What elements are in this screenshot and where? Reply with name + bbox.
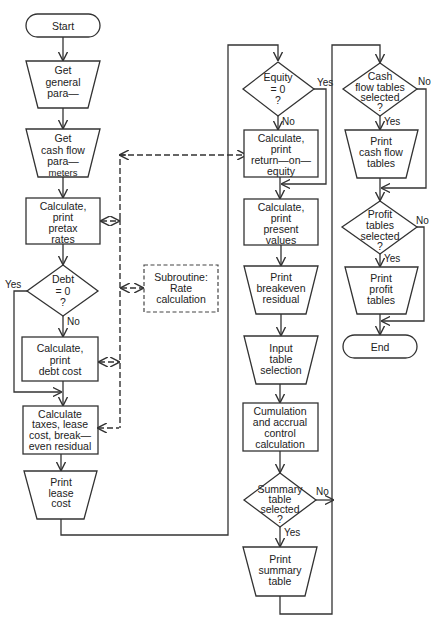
svg-text:?: ?	[377, 240, 383, 252]
yes-label: Yes	[384, 116, 400, 127]
node-pretax-rates: Calculate, print pretax rates	[26, 198, 100, 245]
svg-text:selection: selection	[260, 364, 302, 376]
node-cashflow-decision: Cash flow tables selected ?	[343, 63, 417, 116]
svg-text:Equity: Equity	[263, 71, 293, 83]
node-print-cashflow: Print cash flow tables	[345, 130, 418, 178]
flowchart: Start Get general para— meters Get cash …	[0, 0, 438, 620]
svg-text:Debt: Debt	[52, 273, 74, 285]
node-summary-decision: Summary table selected ?	[244, 473, 316, 527]
node-print-summary: Print summary table	[243, 547, 317, 596]
svg-text:even residual: even residual	[29, 440, 91, 452]
yes-label: Yes	[284, 527, 300, 538]
svg-text:calculation: calculation	[156, 293, 206, 305]
no-label: No	[282, 116, 295, 127]
svg-text:rates: rates	[51, 233, 74, 245]
node-calc-taxes: Calculate taxes, lease cost, break— even…	[23, 406, 98, 454]
svg-text:?: ?	[60, 296, 66, 308]
node-equity-decision: Equity = 0 ?	[243, 62, 314, 116]
svg-text:para—: para—	[47, 155, 79, 167]
node-debt-cost: Calculate, print debt cost	[22, 337, 98, 381]
node-return-on-equity: Calculate, print return—on— equity	[244, 130, 318, 177]
node-end: End	[343, 335, 417, 358]
svg-text:Calculate,: Calculate,	[37, 342, 84, 354]
node-cumulation: Cumulation and accrual control calculati…	[243, 403, 318, 451]
node-present-values: Calculate, print present values	[244, 199, 318, 246]
node-input-table-selection: Input table selection	[244, 336, 318, 384]
svg-text:Start: Start	[52, 20, 74, 32]
svg-text:tables: tables	[367, 294, 395, 306]
svg-text:residual: residual	[263, 293, 300, 305]
node-print-profit: Print profit tables	[345, 267, 418, 314]
no-label: No	[316, 486, 329, 497]
svg-text:Get: Get	[55, 132, 72, 144]
svg-text:meters: meters	[48, 167, 77, 178]
svg-text:cost: cost	[51, 497, 70, 509]
node-subroutine-rate-calc: Subroutine: Rate calculation	[144, 265, 218, 312]
svg-text:?: ?	[277, 513, 283, 525]
node-print-breakeven: Print breakeven residual	[244, 266, 318, 314]
no-label: No	[416, 215, 429, 226]
svg-text:values: values	[266, 234, 296, 246]
no-label: No	[418, 76, 431, 87]
svg-text:?: ?	[377, 101, 383, 113]
node-get-general-params: Get general para—	[26, 61, 100, 108]
node-get-cashflow-params: Get cash flow para— meters	[26, 129, 100, 178]
svg-text:debt cost: debt cost	[39, 365, 82, 377]
node-profit-decision: Profit tables selected ?	[342, 201, 417, 254]
svg-text:equity: equity	[267, 165, 296, 177]
svg-text:tables: tables	[367, 157, 395, 169]
yes-label: Yes	[384, 253, 400, 264]
yes-label: Yes	[317, 77, 333, 88]
yes-label: Yes	[5, 279, 21, 290]
node-debt-decision: Debt = 0 ?	[27, 265, 98, 316]
svg-text:?: ?	[275, 94, 281, 106]
no-label: No	[67, 316, 80, 327]
node-print-lease-cost: Print lease cost	[24, 471, 97, 519]
svg-text:End: End	[371, 341, 390, 353]
svg-text:para—: para—	[47, 87, 79, 99]
svg-text:calculation: calculation	[255, 438, 305, 450]
node-start: Start	[26, 14, 100, 37]
svg-text:Get: Get	[55, 64, 72, 76]
svg-text:table: table	[269, 575, 292, 587]
